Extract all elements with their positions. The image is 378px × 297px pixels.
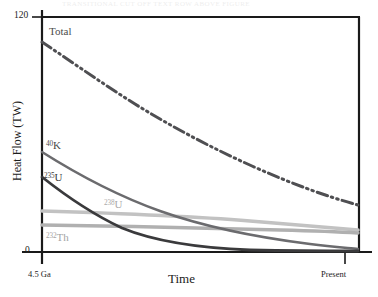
series-label-u238-element: U (114, 198, 122, 210)
series-label-u238: 238U (104, 199, 122, 210)
series-label-th232-element: Th (56, 231, 68, 243)
x-tick-label-left: 4.5 Ga (28, 270, 51, 279)
y-axis-title: Heat Flow (TW) (11, 93, 23, 189)
series-label-u235-element: U (54, 171, 62, 183)
y-tick-label-top: 120 (14, 11, 28, 21)
series-label-total: Total (49, 26, 71, 37)
curve-k40 (42, 152, 358, 249)
series-label-k40: 40K (46, 140, 61, 151)
y-tick-label-bottom: 0 (25, 246, 30, 256)
series-label-th232: 232Th (46, 232, 69, 243)
series-label-th232-superscript: 232 (46, 232, 56, 240)
x-tick-label-right: Present (321, 270, 346, 279)
heat-flow-figure: TRANSITIONAL CUT OFF TEXT ROW ABOVE FIGU… (0, 0, 378, 297)
series-label-u238-superscript: 238 (104, 199, 114, 207)
series-label-u235: 235U (44, 172, 62, 183)
x-axis-title: Time (168, 272, 195, 285)
series-label-k40-element: K (53, 139, 61, 151)
series-label-u235-superscript: 235 (44, 172, 54, 180)
series-label-k40-superscript: 40 (46, 140, 53, 148)
